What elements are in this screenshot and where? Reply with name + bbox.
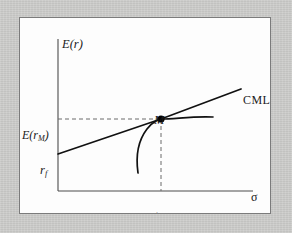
x-axis-tick-label: σM bbox=[151, 209, 164, 214]
x-axis-tick-label-main: σ bbox=[151, 208, 157, 214]
y-axis-tick-label-main: E(r bbox=[22, 128, 38, 142]
figure-container: E(r) E(rM) rf M CML σM σ bbox=[0, 0, 292, 233]
y-axis-tick-label-close: ) bbox=[45, 128, 49, 142]
plot-frame: E(r) E(rM) rf M CML σM σ bbox=[19, 17, 271, 214]
x-axis-title: σ bbox=[251, 191, 257, 203]
market-portfolio-label: M bbox=[154, 114, 164, 127]
efficient-frontier-curve bbox=[137, 117, 213, 173]
risk-free-rate-label: rf bbox=[40, 164, 47, 177]
cml-line bbox=[58, 89, 241, 154]
y-axis-title: E(r) bbox=[62, 38, 83, 51]
y-axis-tick-label: E(rM) bbox=[22, 129, 49, 143]
y-axis-tick-label-subscript: M bbox=[38, 134, 45, 143]
plot-canvas bbox=[20, 18, 270, 213]
cml-label: CML bbox=[243, 94, 270, 106]
risk-free-rate-label-subscript: f bbox=[45, 168, 47, 178]
